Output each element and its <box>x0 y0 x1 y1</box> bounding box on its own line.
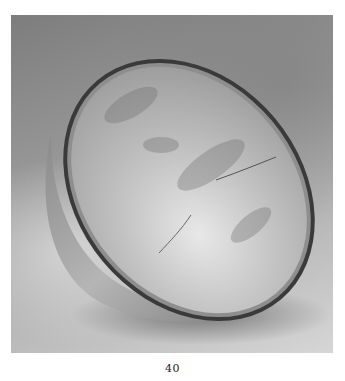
figure-caption: 40 <box>0 362 345 375</box>
bowl-photograph <box>11 15 333 353</box>
bowl-illustration <box>11 15 333 353</box>
